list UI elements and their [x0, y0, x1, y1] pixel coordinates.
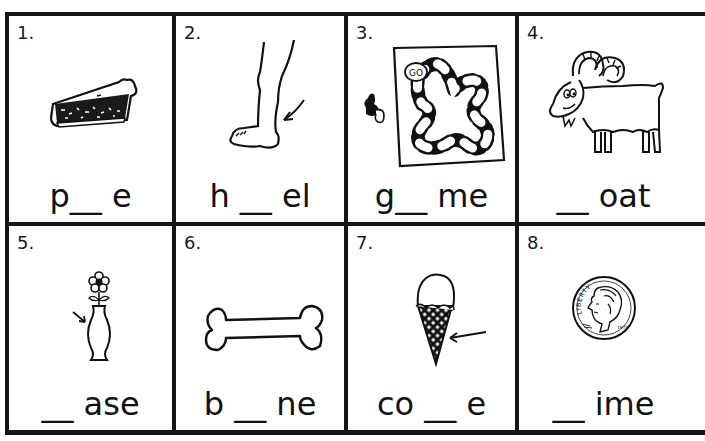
go-label: GO: [409, 68, 423, 78]
cell-number: 6.: [184, 232, 201, 253]
cell-number: 5.: [17, 232, 34, 253]
fill-in-word[interactable]: p__ e: [9, 176, 172, 216]
cell-number: 1.: [17, 22, 34, 43]
cell-number: 3.: [356, 22, 373, 43]
fill-in-word[interactable]: h __ el: [176, 176, 344, 216]
ice-cream-cone-icon: [412, 272, 492, 368]
cell-number: 7.: [356, 232, 373, 253]
bone-icon: [204, 302, 326, 356]
cell-1-pie: 1. p__ e: [9, 16, 172, 222]
vase-with-flower-icon: [71, 270, 121, 380]
cell-5-vase: 5. __ ase: [9, 226, 172, 430]
dime-coin-icon: LIBERTY 1979: [570, 274, 638, 342]
cell-number: 8.: [527, 232, 544, 253]
cell-number: 2.: [184, 22, 201, 43]
cell-8-dime: 8. LIBERTY 1979 __ ime: [519, 226, 688, 430]
fill-in-word[interactable]: __ oat: [519, 176, 688, 216]
fill-in-word[interactable]: g__ me: [348, 176, 515, 216]
cell-4-goat: 4. __ oat: [519, 16, 688, 222]
fill-in-word[interactable]: __ ime: [519, 384, 688, 424]
cell-6-bone: 6. b __ ne: [176, 226, 344, 430]
pie-slice-icon: [47, 74, 139, 134]
cell-3-game: 3. GO g__ me: [348, 16, 515, 222]
board-game-icon: GO: [356, 44, 514, 174]
fill-in-word[interactable]: co __ e: [348, 384, 515, 424]
goat-icon: [543, 46, 667, 158]
cell-number: 4.: [527, 22, 544, 43]
fill-in-word[interactable]: __ ase: [9, 384, 172, 424]
foot-heel-icon: [220, 40, 310, 160]
cell-7-cone: 7. co __ e: [348, 226, 515, 430]
year-text: 1979: [617, 325, 629, 330]
cell-2-heel: 2. h __ el: [176, 16, 344, 222]
fill-in-word[interactable]: b __ ne: [176, 384, 344, 424]
